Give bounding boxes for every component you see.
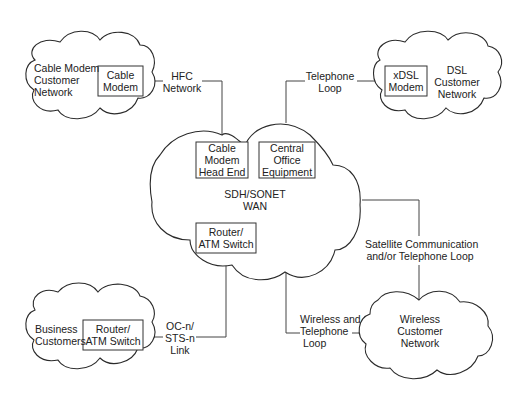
central-office-device-label: Central Office Equipment bbox=[259, 142, 315, 178]
wan-label: SDH/SONET WAN bbox=[220, 188, 290, 212]
hfc-network-label: HFC Network bbox=[162, 70, 202, 94]
cable-modem-device-label: Cable Modem bbox=[98, 69, 143, 93]
satellite-link-label: Satellite Communication and/or Telephone… bbox=[365, 238, 475, 262]
network-access-diagram: Cable Modem Customer Network Cable Modem… bbox=[0, 0, 518, 409]
head-end-device-label: Cable Modem Head End bbox=[196, 142, 248, 178]
business-customers-label: Business Customers bbox=[35, 323, 86, 347]
dsl-customer-network-label: DSL Customer Network bbox=[427, 64, 487, 100]
wireless-telephone-loop-label: Wireless and Telephone Loop bbox=[300, 313, 361, 349]
cable-modem-customer-network-label: Cable Modem Customer Network bbox=[34, 62, 99, 98]
business-router-device-label: Router/ ATM Switch bbox=[83, 323, 143, 347]
xdsl-modem-device-label: xDSL Modem bbox=[385, 69, 427, 93]
wan-router-device-label: Router/ ATM Switch bbox=[196, 226, 256, 250]
wireless-customer-network-label: Wireless Customer Network bbox=[390, 313, 450, 349]
oc-sts-link-label: OC-n/ STS-n Link bbox=[163, 320, 197, 356]
telephone-loop-label: Telephone Loop bbox=[302, 70, 358, 94]
